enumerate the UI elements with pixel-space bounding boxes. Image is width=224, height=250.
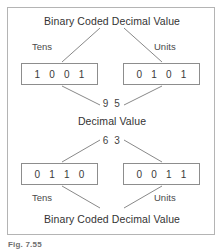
- bottom-units-bits-box: 0 0 1 1: [123, 163, 200, 185]
- top-section-title: Binary Coded Decimal Value: [0, 16, 224, 27]
- bottom-tens-bits-box: 0 1 1 0: [21, 163, 98, 185]
- decimal-value-title: Decimal Value: [0, 116, 224, 127]
- figure-caption: Fig. 7.55: [8, 240, 42, 249]
- bottom-units-label: Units: [154, 193, 176, 203]
- top-tens-label: Tens: [32, 42, 52, 52]
- bottom-tens-label: Tens: [32, 193, 52, 203]
- top-decimal-value: 9 5: [0, 99, 224, 109]
- bottom-decimal-value: 6 3: [0, 136, 224, 146]
- bottom-section-title: Binary Coded Decimal Value: [0, 214, 224, 225]
- top-units-label: Units: [154, 42, 176, 52]
- top-units-bits-box: 0 1 0 1: [123, 63, 200, 85]
- top-tens-bits-box: 1 0 0 1: [21, 63, 98, 85]
- bcd-conversion-figure: Binary Coded Decimal Value Tens Units 1 …: [0, 0, 224, 250]
